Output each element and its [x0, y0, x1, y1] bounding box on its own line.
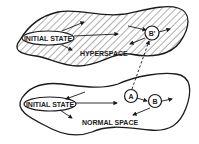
normal-initial-state-node: INITIAL STATE [24, 97, 76, 111]
b-prime-label: B' [149, 30, 156, 37]
b-prime-node: B' [145, 26, 159, 40]
a-label: A [128, 93, 133, 100]
normal-space-label: NORMAL SPACE [82, 119, 138, 126]
hyperspace-initial-state-label: INITIAL STATE [24, 35, 73, 42]
a-node: A [125, 90, 138, 103]
hyperspace-diagram: INITIAL STATE HYPERSPACE B' INITIAL STAT… [0, 0, 199, 144]
b-node: B [149, 95, 162, 108]
hyperspace-label: HYPERSPACE [80, 50, 128, 57]
normal-initial-state-label: INITIAL STATE [26, 101, 75, 108]
b-label: B [152, 98, 157, 105]
hyperspace-initial-state-node: INITIAL STATE [22, 31, 74, 45]
